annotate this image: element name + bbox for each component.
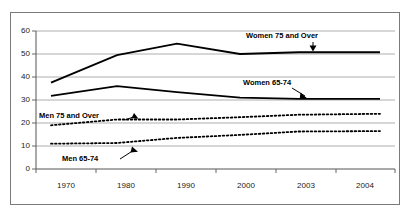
y-tick-label-0: 0 [12, 165, 30, 173]
y-tick-label-50: 50 [12, 50, 30, 58]
y-axis-ticks [32, 31, 36, 169]
x-tick-label-2004: 2004 [345, 182, 385, 190]
gridlines [36, 31, 395, 146]
series-line-men-65-74 [51, 131, 380, 144]
series-label-men-75-over: Men 75 and Over [39, 112, 99, 120]
annotation-arrow-women-75-over [310, 42, 317, 52]
x-tick-label-2000: 2000 [226, 182, 266, 190]
y-tick-label-30: 30 [12, 96, 30, 104]
y-tick-label-20: 20 [12, 119, 30, 127]
chart-container: 60 50 40 30 20 10 0 1970 1980 1990 2000 … [0, 0, 415, 217]
x-tick-label-1970: 1970 [46, 182, 86, 190]
series-label-men-65-74: Men 65-74 [62, 155, 98, 163]
y-tick-label-10: 10 [12, 142, 30, 150]
y-tick-label-60: 60 [12, 27, 30, 35]
series-label-women-75-over: Women 75 and Over [246, 32, 318, 40]
x-tick-label-2003: 2003 [286, 182, 326, 190]
series-line-women-65-74 [51, 86, 380, 99]
x-axis-ticks [36, 169, 395, 173]
x-tick-label-1980: 1980 [106, 182, 146, 190]
annotation-arrow-men-65-74 [120, 147, 138, 160]
annotation-arrow-women-65-74 [292, 88, 308, 99]
x-tick-label-1990: 1990 [166, 182, 206, 190]
series-label-women-65-74: Women 65-74 [243, 79, 291, 87]
y-tick-label-40: 40 [12, 73, 30, 81]
series-line-men-75-over [51, 114, 380, 126]
